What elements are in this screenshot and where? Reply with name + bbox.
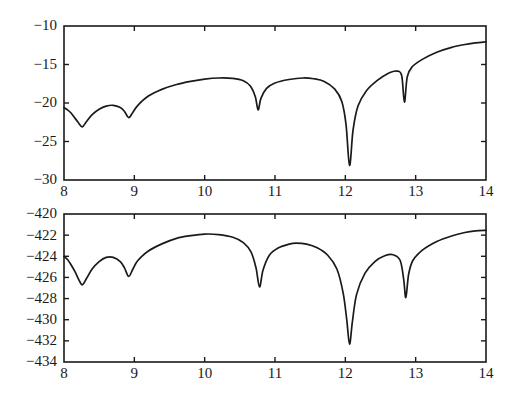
- x-tick-label: 13: [408, 365, 423, 381]
- x-tick-label: 12: [338, 183, 353, 198]
- x-tick-label: 9: [131, 365, 139, 381]
- data-curve: [64, 42, 486, 166]
- x-tick-label: 11: [268, 365, 282, 381]
- y-tick-label: −428: [26, 290, 57, 306]
- x-tick-label: 14: [479, 183, 495, 198]
- data-curve: [64, 230, 486, 344]
- x-tick-label: 9: [131, 183, 139, 198]
- y-tick-label: −10: [34, 17, 57, 33]
- y-tick-label: −426: [26, 269, 57, 285]
- x-tick-label: 13: [408, 183, 423, 198]
- chart-top-panel: 891011121314−30−25−20−15−10: [0, 0, 517, 198]
- y-tick-label: −25: [34, 133, 57, 149]
- figure-canvas: 891011121314−30−25−20−15−10 891011121314…: [0, 0, 517, 396]
- x-tick-label: 8: [60, 365, 68, 381]
- y-tick-label: −430: [26, 311, 57, 327]
- y-tick-label: −30: [34, 171, 57, 187]
- y-tick-label: −432: [26, 332, 57, 348]
- y-tick-label: −20: [34, 94, 57, 110]
- y-tick-label: −434: [26, 353, 57, 369]
- plot-frame: [64, 214, 486, 362]
- y-tick-label: −420: [26, 205, 57, 221]
- y-tick-label: −422: [26, 227, 57, 243]
- y-tick-label: −15: [34, 56, 57, 72]
- x-tick-label: 8: [60, 183, 68, 198]
- x-tick-label: 14: [479, 365, 495, 381]
- y-tick-label: −424: [26, 248, 57, 264]
- chart-bottom-panel: 891011121314−434−432−430−428−426−424−422…: [0, 198, 517, 396]
- x-tick-label: 12: [338, 365, 353, 381]
- x-tick-label: 10: [197, 365, 212, 381]
- x-tick-label: 11: [268, 183, 282, 198]
- x-tick-label: 10: [197, 183, 212, 198]
- plot-frame: [64, 26, 486, 180]
